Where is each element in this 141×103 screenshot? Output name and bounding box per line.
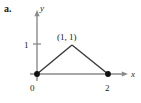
x-tick-label-0: 0 [30, 83, 35, 93]
x-axis-arrow-icon [122, 71, 128, 76]
y-tick-label-1: 1 [24, 40, 29, 50]
curve-segment-falling [72, 45, 108, 74]
y-axis-label: y [39, 3, 44, 13]
x-tick-label-2: 2 [105, 83, 110, 93]
figure-panel-a: a. y x 1 0 2 (1, 1) [0, 0, 141, 103]
endpoint-dot-origin [34, 71, 40, 77]
x-axis-label: x [130, 69, 135, 79]
curve-segment-rising [37, 45, 72, 74]
peak-point-annotation: (1, 1) [57, 32, 77, 42]
triangle-function-plot: y x 1 0 2 (1, 1) [0, 0, 141, 103]
endpoint-dot-x2 [105, 71, 111, 77]
y-axis-arrow-icon [34, 10, 39, 16]
